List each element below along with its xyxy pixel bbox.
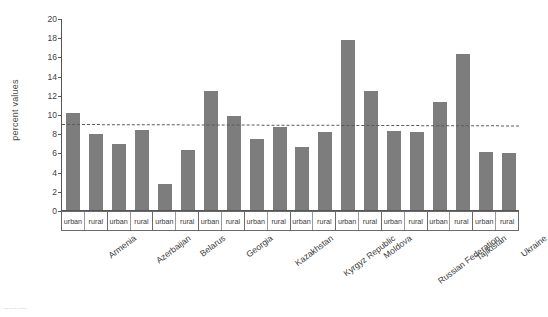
x-label-cell: rural: [359, 212, 381, 230]
x-label-group: urbanrural: [62, 212, 108, 230]
x-label-group: urbanrural: [291, 212, 337, 230]
bar-group: [199, 19, 245, 210]
x-label-cell: rural: [405, 212, 427, 230]
x-label-cell: urban: [199, 212, 222, 230]
bar-group: [154, 19, 200, 210]
x-label-group: urbanrural: [336, 212, 382, 230]
figure-footer-cropped: Source:: [4, 308, 304, 317]
x-label-cell: rural: [176, 212, 198, 230]
x-label-cell: urban: [62, 212, 85, 230]
plot-area: 02468101214161820: [61, 19, 519, 211]
bar: [135, 130, 149, 210]
country-label: Belarus: [198, 233, 227, 259]
x-label-cell: urban: [336, 212, 359, 230]
bar: [387, 131, 401, 210]
bar-group: [62, 19, 108, 210]
x-label-cell: urban: [291, 212, 314, 230]
x-label-group: urbanrural: [473, 212, 518, 230]
x-label-group: urbanrural: [428, 212, 474, 230]
bar-group: [428, 19, 474, 210]
x-label-cell: rural: [450, 212, 472, 230]
x-label-group: urbanrural: [199, 212, 245, 230]
footer-text: Source:: [4, 308, 304, 310]
bar: [364, 91, 378, 210]
bar: [318, 132, 332, 210]
bar: [204, 91, 218, 210]
bar-group: [337, 19, 383, 210]
bar: [456, 54, 470, 210]
bar-group: [108, 19, 154, 210]
bar: [158, 184, 172, 210]
x-label-cell: rural: [313, 212, 335, 230]
bar: [181, 150, 195, 210]
bar: [250, 139, 264, 210]
country-label: Azerbaijan: [154, 233, 192, 265]
bar: [66, 113, 80, 210]
y-axis-title: percent values: [10, 50, 26, 170]
x-label-cell: rural: [222, 212, 244, 230]
x-label-cell: urban: [245, 212, 268, 230]
bar: [273, 127, 287, 210]
x-label-cell: rural: [85, 212, 107, 230]
bar-group: [474, 19, 520, 210]
bar: [502, 153, 516, 210]
bar-group: [383, 19, 429, 210]
x-label-cell: urban: [153, 212, 176, 230]
x-label-group: urbanrural: [153, 212, 199, 230]
x-label-group: urbanrural: [108, 212, 154, 230]
country-label: Armenia: [107, 233, 139, 260]
x-label-cell: urban: [382, 212, 405, 230]
country-label: Georgia: [244, 233, 274, 259]
x-label-cell: urban: [108, 212, 131, 230]
bar: [227, 116, 241, 210]
x-label-group: urbanrural: [245, 212, 291, 230]
bar: [295, 147, 309, 210]
bar: [89, 134, 103, 210]
bar: [112, 144, 126, 210]
x-axis-label-table: urbanruralurbanruralurbanruralurbanrural…: [61, 211, 519, 231]
x-label-cell: rural: [496, 212, 518, 230]
x-label-cell: rural: [131, 212, 153, 230]
country-label: Kazakhstan: [293, 233, 335, 268]
x-label-group: urbanrural: [382, 212, 428, 230]
bar: [479, 152, 493, 210]
bar: [433, 102, 447, 210]
x-axis-country-labels: ArmeniaAzerbaijanBelarusGeorgiaKazakhsta…: [61, 233, 519, 289]
country-label: Ukraine: [519, 233, 548, 259]
bar: [410, 132, 424, 210]
x-label-cell: urban: [428, 212, 451, 230]
x-label-cell: rural: [268, 212, 290, 230]
bar-group: [291, 19, 337, 210]
bar-series: [62, 19, 519, 210]
x-label-cell: urban: [473, 212, 496, 230]
bar-group: [245, 19, 291, 210]
